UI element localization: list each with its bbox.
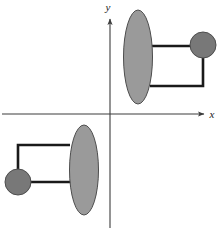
axes-group: x y [2,1,215,228]
lower-left-figure [5,125,99,215]
lower-circle-shape [5,169,31,195]
coordinate-plane-diagram: x y [0,0,224,230]
upper-circle-shape [190,32,216,58]
diagram-canvas: x y [0,0,224,230]
lower-ellipse-shape [70,125,99,215]
upper-right-figure [124,10,217,104]
x-axis-label: x [209,108,215,120]
upper-ellipse-shape [124,10,153,104]
y-axis-label: y [105,1,111,13]
